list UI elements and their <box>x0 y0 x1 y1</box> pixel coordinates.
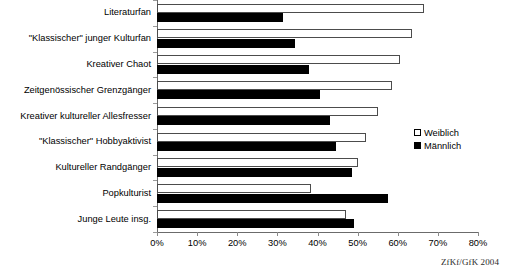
y-axis-tick <box>153 103 157 104</box>
category-label: Kreativer kultureller Allesfresser <box>0 111 151 121</box>
category-label: "Klassischer" Hobbyaktivist <box>0 136 151 146</box>
source-note: ZfKf/GfK 2004 <box>441 257 499 267</box>
bar-maennlich <box>157 90 320 99</box>
category-label: Kreativer Chaot <box>0 59 151 69</box>
bar-chart: Literaturfan"Klassischer" junger Kulturf… <box>0 0 507 269</box>
x-axis-tick-label: 50% <box>338 238 378 248</box>
y-axis-tick <box>153 206 157 207</box>
x-axis-tick <box>197 232 198 236</box>
category-label: Zeitgenössischer Grenzgänger <box>0 85 151 95</box>
bar-weiblich <box>157 107 378 116</box>
plot-area: 0%10%20%30%40%50%60%70%80% <box>157 0 478 232</box>
y-axis-tick <box>153 26 157 27</box>
bar-maennlich <box>157 194 388 203</box>
x-axis-tick <box>478 232 479 236</box>
x-axis-tick <box>318 232 319 236</box>
legend-label-weiblich: Weiblich <box>424 128 459 138</box>
category-label: Popkulturist <box>0 188 151 198</box>
x-axis-tick <box>358 232 359 236</box>
x-axis-tick-label: 60% <box>378 238 418 248</box>
x-axis-tick-label: 10% <box>177 238 217 248</box>
bar-maennlich <box>157 65 309 74</box>
bar-maennlich <box>157 142 336 151</box>
legend-item-maennlich: Männlich <box>414 139 504 152</box>
x-axis-tick <box>438 232 439 236</box>
x-axis-tick <box>157 232 158 236</box>
y-axis-tick <box>153 77 157 78</box>
bar-maennlich <box>157 116 330 125</box>
x-axis-tick-label: 20% <box>217 238 257 248</box>
category-label: "Klassischer" junger Kulturfan <box>0 33 151 43</box>
bar-weiblich <box>157 158 358 167</box>
y-axis-tick <box>153 0 157 1</box>
x-axis-tick <box>277 232 278 236</box>
y-axis-tick <box>153 52 157 53</box>
x-axis-tick <box>237 232 238 236</box>
x-axis-tick-label: 40% <box>298 238 338 248</box>
chart-legend: Weiblich Männlich <box>414 126 504 152</box>
bar-maennlich <box>157 13 283 22</box>
legend-swatch-weiblich-icon <box>414 129 421 136</box>
legend-item-weiblich: Weiblich <box>414 126 504 139</box>
legend-label-maennlich: Männlich <box>424 141 461 151</box>
y-axis-tick <box>153 232 157 233</box>
x-axis-tick-label: 80% <box>458 238 498 248</box>
category-label: Junge Leute insg. <box>0 214 151 224</box>
bar-maennlich <box>157 39 295 48</box>
bar-maennlich <box>157 168 352 177</box>
category-label: Literaturfan <box>0 7 151 17</box>
x-axis-tick <box>398 232 399 236</box>
bar-weiblich <box>157 55 400 64</box>
y-axis-tick <box>153 155 157 156</box>
bar-weiblich <box>157 210 346 219</box>
bar-weiblich <box>157 4 424 13</box>
bar-weiblich <box>157 133 366 142</box>
bar-maennlich <box>157 219 354 228</box>
x-axis-tick-label: 70% <box>418 238 458 248</box>
bar-weiblich <box>157 29 412 38</box>
x-axis-tick-label: 0% <box>137 238 177 248</box>
legend-swatch-maennlich-icon <box>414 142 421 149</box>
y-axis-tick <box>153 129 157 130</box>
category-axis-labels: Literaturfan"Klassischer" junger Kulturf… <box>0 0 154 232</box>
category-label: Kultureller Randgänger <box>0 162 151 172</box>
bar-weiblich <box>157 184 311 193</box>
y-axis-tick <box>153 180 157 181</box>
bar-weiblich <box>157 81 392 90</box>
x-axis-tick-label: 30% <box>257 238 297 248</box>
